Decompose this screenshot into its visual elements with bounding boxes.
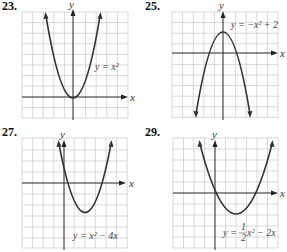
y-axis-label: y — [59, 128, 65, 140]
y-axis-arrow-icon — [213, 140, 218, 147]
curve-arrow-icon — [248, 111, 253, 118]
fraction-numerator: 1 — [241, 221, 246, 232]
x-axis-arrow-icon — [271, 191, 278, 196]
curve-arrow-icon — [57, 140, 62, 147]
y-axis-label: y — [68, 0, 74, 10]
x-axis-arrow-icon — [271, 51, 278, 56]
equation-label: y = x² − 4x — [72, 230, 118, 241]
curve-arrow-icon — [270, 140, 275, 147]
svg-text:x² − 2x: x² − 2x — [246, 227, 276, 238]
fraction-denominator: 2 — [241, 232, 246, 243]
x-axis-label: x — [279, 47, 285, 59]
curve-arrow-icon — [194, 111, 199, 118]
curve-arrow-icon — [109, 140, 114, 147]
y-axis-arrow-icon — [71, 9, 76, 16]
graph-25: 25. x y y = −x² + 2 — [143, 0, 286, 126]
x-axis-label: x — [129, 91, 135, 103]
x-axis-arrow-icon — [121, 95, 128, 100]
y-axis-label: y — [211, 128, 217, 140]
y-axis-label: y — [218, 0, 224, 11]
curve-arrow-icon — [44, 12, 49, 19]
graph-23-plot: x y y = x² — [0, 0, 143, 126]
graph-29-plot: x y y = 1 2 x² − 2x — [143, 126, 287, 252]
equation-label: y = x² — [94, 61, 120, 72]
graph-25-plot: x y y = −x² + 2 — [143, 0, 287, 126]
equation-label: y = −x² + 2 — [230, 19, 278, 30]
curve-arrow-icon — [198, 140, 203, 147]
x-axis-label: x — [128, 177, 134, 189]
curve-arrow-icon — [98, 12, 103, 19]
graph-27-plot: x y y = x² − 4x — [0, 126, 143, 252]
y-axis-arrow-icon — [62, 140, 67, 147]
graph-27: 27. x y y = x² − 4x — [0, 126, 143, 252]
svg-text:y =: y = — [222, 227, 237, 238]
equation-label: y = 1 2 x² − 2x — [222, 221, 276, 243]
graph-23: 23. x y y = x² — [0, 0, 143, 126]
x-axis-arrow-icon — [119, 181, 126, 186]
x-axis-label: x — [279, 187, 285, 199]
graph-29: 29. x y y = 1 2 x² − 2x — [143, 126, 286, 252]
